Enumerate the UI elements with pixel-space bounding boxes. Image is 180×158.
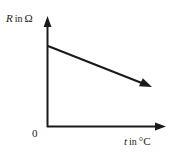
y-axis-label: R in Ω	[6, 13, 33, 24]
y-axis-unit: Ω	[25, 12, 33, 24]
resistance-temperature-graph: R in Ω t in °C 0	[0, 0, 180, 158]
x-axis-label: t in °C	[124, 136, 151, 147]
y-axis-variable: R	[6, 12, 13, 24]
y-axis-arrowhead-icon	[44, 16, 52, 27]
origin-label: 0	[32, 128, 38, 139]
x-axis-connector: in	[127, 136, 139, 147]
x-axis-unit: °C	[139, 135, 151, 147]
y-axis-connector: in	[13, 13, 25, 24]
x-axis-arrowhead-icon	[155, 123, 166, 131]
data-line-resistance	[48, 46, 143, 84]
data-line-arrowhead-icon	[139, 78, 152, 87]
